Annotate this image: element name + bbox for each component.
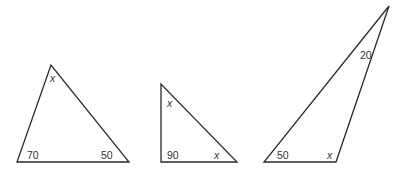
triangle-2-angle-bottom-right: x bbox=[213, 149, 220, 161]
triangle-2: 90 x x bbox=[161, 84, 237, 162]
triangle-3-angle-bottom-left: 50 bbox=[277, 149, 289, 161]
triangle-1-angle-top: x bbox=[49, 72, 56, 84]
triangle-1: 70 50 x bbox=[17, 65, 129, 162]
triangles-figure: 70 50 x 90 x x 50 x 20 bbox=[0, 0, 407, 171]
triangle-2-angle-top: x bbox=[166, 97, 173, 109]
triangle-3-angle-top: 20 bbox=[360, 49, 372, 61]
triangle-1-angle-bottom-right: 50 bbox=[101, 149, 113, 161]
triangle-2-angle-bottom-left: 90 bbox=[167, 149, 179, 161]
triangle-3-outline bbox=[264, 6, 389, 162]
triangle-1-outline bbox=[17, 65, 129, 162]
triangle-1-angle-bottom-left: 70 bbox=[27, 149, 39, 161]
triangle-3-angle-bottom-right: x bbox=[326, 149, 333, 161]
triangle-3: 50 x 20 bbox=[264, 6, 389, 162]
